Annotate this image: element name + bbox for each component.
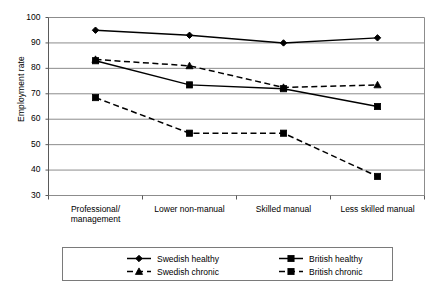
legend-label: British chronic xyxy=(309,267,362,277)
legend-swatch-square-icon xyxy=(278,266,304,277)
chart-legend: Swedish healthyBritish healthySwedish ch… xyxy=(62,247,393,281)
legend-swatch-diamond-icon xyxy=(126,253,152,264)
legend-swatch-square-icon xyxy=(278,253,304,264)
legend-label: British healthy xyxy=(309,254,362,264)
series-swedish-chronic xyxy=(92,56,381,91)
plot-frame xyxy=(49,18,425,196)
legend-swatch-triangle-icon xyxy=(126,266,152,277)
legend-item-swedish-chronic[interactable]: Swedish chronic xyxy=(126,266,219,277)
series-british-healthy xyxy=(92,58,380,110)
legend-label: Swedish healthy xyxy=(157,254,219,264)
series-british-chronic xyxy=(92,95,380,180)
legend-item-swedish-healthy[interactable]: Swedish healthy xyxy=(126,253,219,264)
gridlines xyxy=(49,18,425,196)
x-tick-marks xyxy=(49,196,425,200)
legend-label: Swedish chronic xyxy=(157,267,219,277)
legend-item-british-healthy[interactable]: British healthy xyxy=(278,253,362,264)
chart-figure: Employment rate 10090807060504030 Profes… xyxy=(0,0,439,291)
legend-item-british-chronic[interactable]: British chronic xyxy=(278,266,362,277)
